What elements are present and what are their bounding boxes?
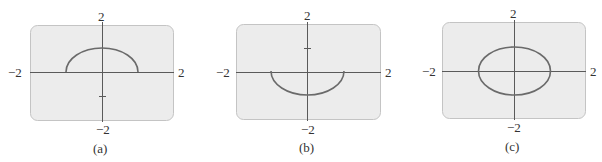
caption-b: (b) <box>299 141 314 155</box>
y-max-label-a: 2 <box>98 10 105 24</box>
graph-panel-c: 2 −2 −2 2 (c) <box>400 0 602 162</box>
x-min-label-a: −2 <box>8 66 22 80</box>
y-min-label-a: −2 <box>96 123 110 137</box>
graph-a-plot <box>0 0 200 162</box>
x-min-label-c: −2 <box>422 65 436 79</box>
y-min-label-c: −2 <box>507 121 521 135</box>
x-max-label-a: 2 <box>178 66 185 80</box>
graph-b-plot <box>200 0 410 162</box>
y-max-label-c: 2 <box>510 7 517 21</box>
graph-c-plot <box>400 0 602 162</box>
graph-panel-a: 2 −2 −2 2 (a) <box>0 0 200 162</box>
graph-panel-b: 2 −2 −2 2 (b) <box>200 0 410 162</box>
x-min-label-b: −2 <box>216 66 230 80</box>
y-max-label-b: 2 <box>304 9 311 23</box>
caption-a: (a) <box>93 142 107 156</box>
x-max-label-c: 2 <box>590 65 597 79</box>
caption-c: (c) <box>505 140 519 154</box>
x-max-label-b: 2 <box>385 66 392 80</box>
y-min-label-b: −2 <box>301 123 315 137</box>
